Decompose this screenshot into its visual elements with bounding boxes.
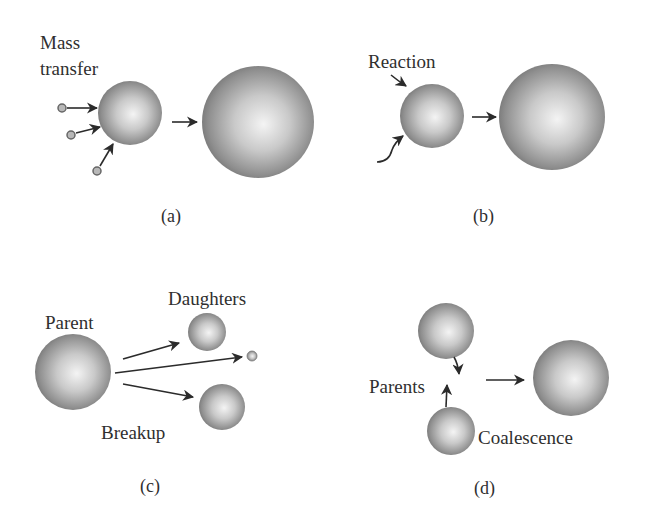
caption-c: (c) [140, 477, 160, 495]
label-parent: Parent [45, 313, 94, 332]
panel-b-reaction [377, 64, 605, 170]
label-daughters: Daughters [168, 289, 246, 308]
approach-arrows [446, 357, 459, 407]
daughter-particle-2 [247, 351, 257, 361]
coalesced-particle [533, 340, 609, 416]
panel-a-mass-transfer [58, 66, 314, 178]
daughter-particle-1 [188, 313, 226, 351]
label-coalescence: Coalescence [478, 428, 573, 447]
caption-a: (a) [161, 207, 181, 225]
label-transfer: transfer [40, 59, 98, 78]
solute-molecules [58, 104, 101, 175]
label-breakup: Breakup [101, 423, 165, 442]
caption-b: (b) [473, 207, 494, 225]
daughter-particle-3 [199, 384, 245, 430]
label-reaction: Reaction [368, 52, 436, 71]
parent-particle-top [418, 303, 474, 359]
grown-particle [202, 66, 314, 178]
grown-particle [499, 64, 605, 170]
parent-particle-bottom [427, 407, 475, 455]
label-mass: Mass [40, 33, 80, 52]
label-parents: Parents [369, 377, 425, 396]
small-particle [98, 81, 162, 145]
caption-d: (d) [474, 479, 495, 497]
small-particle [400, 84, 464, 148]
parent-particle [35, 334, 111, 410]
